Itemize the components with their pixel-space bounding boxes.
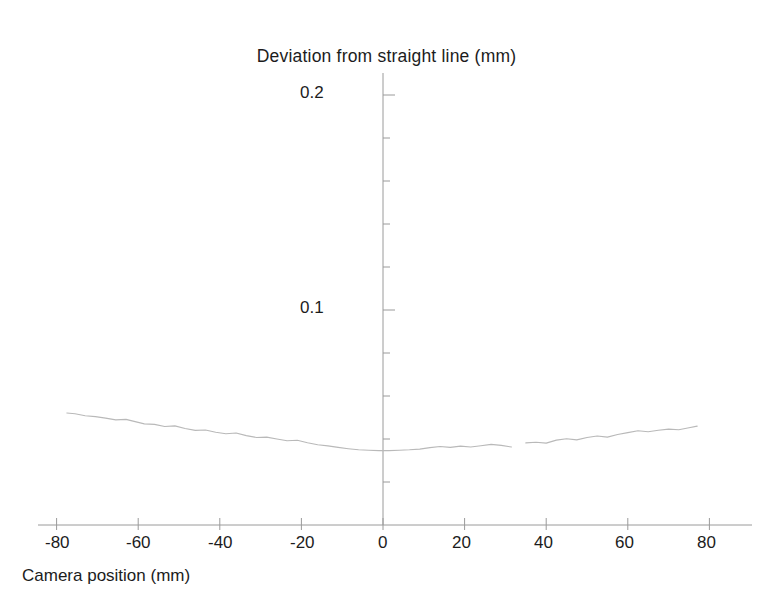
data-series-group	[67, 413, 697, 451]
chart-figure: Deviation from straight line (mm) 0.2 0.…	[0, 0, 773, 611]
data-line-deviation	[526, 426, 697, 443]
axis-group	[38, 73, 752, 525]
x-axis-ticks	[57, 518, 710, 530]
plot-area	[0, 0, 773, 611]
y-axis-ticks	[383, 95, 395, 482]
data-line-deviation	[67, 413, 512, 451]
